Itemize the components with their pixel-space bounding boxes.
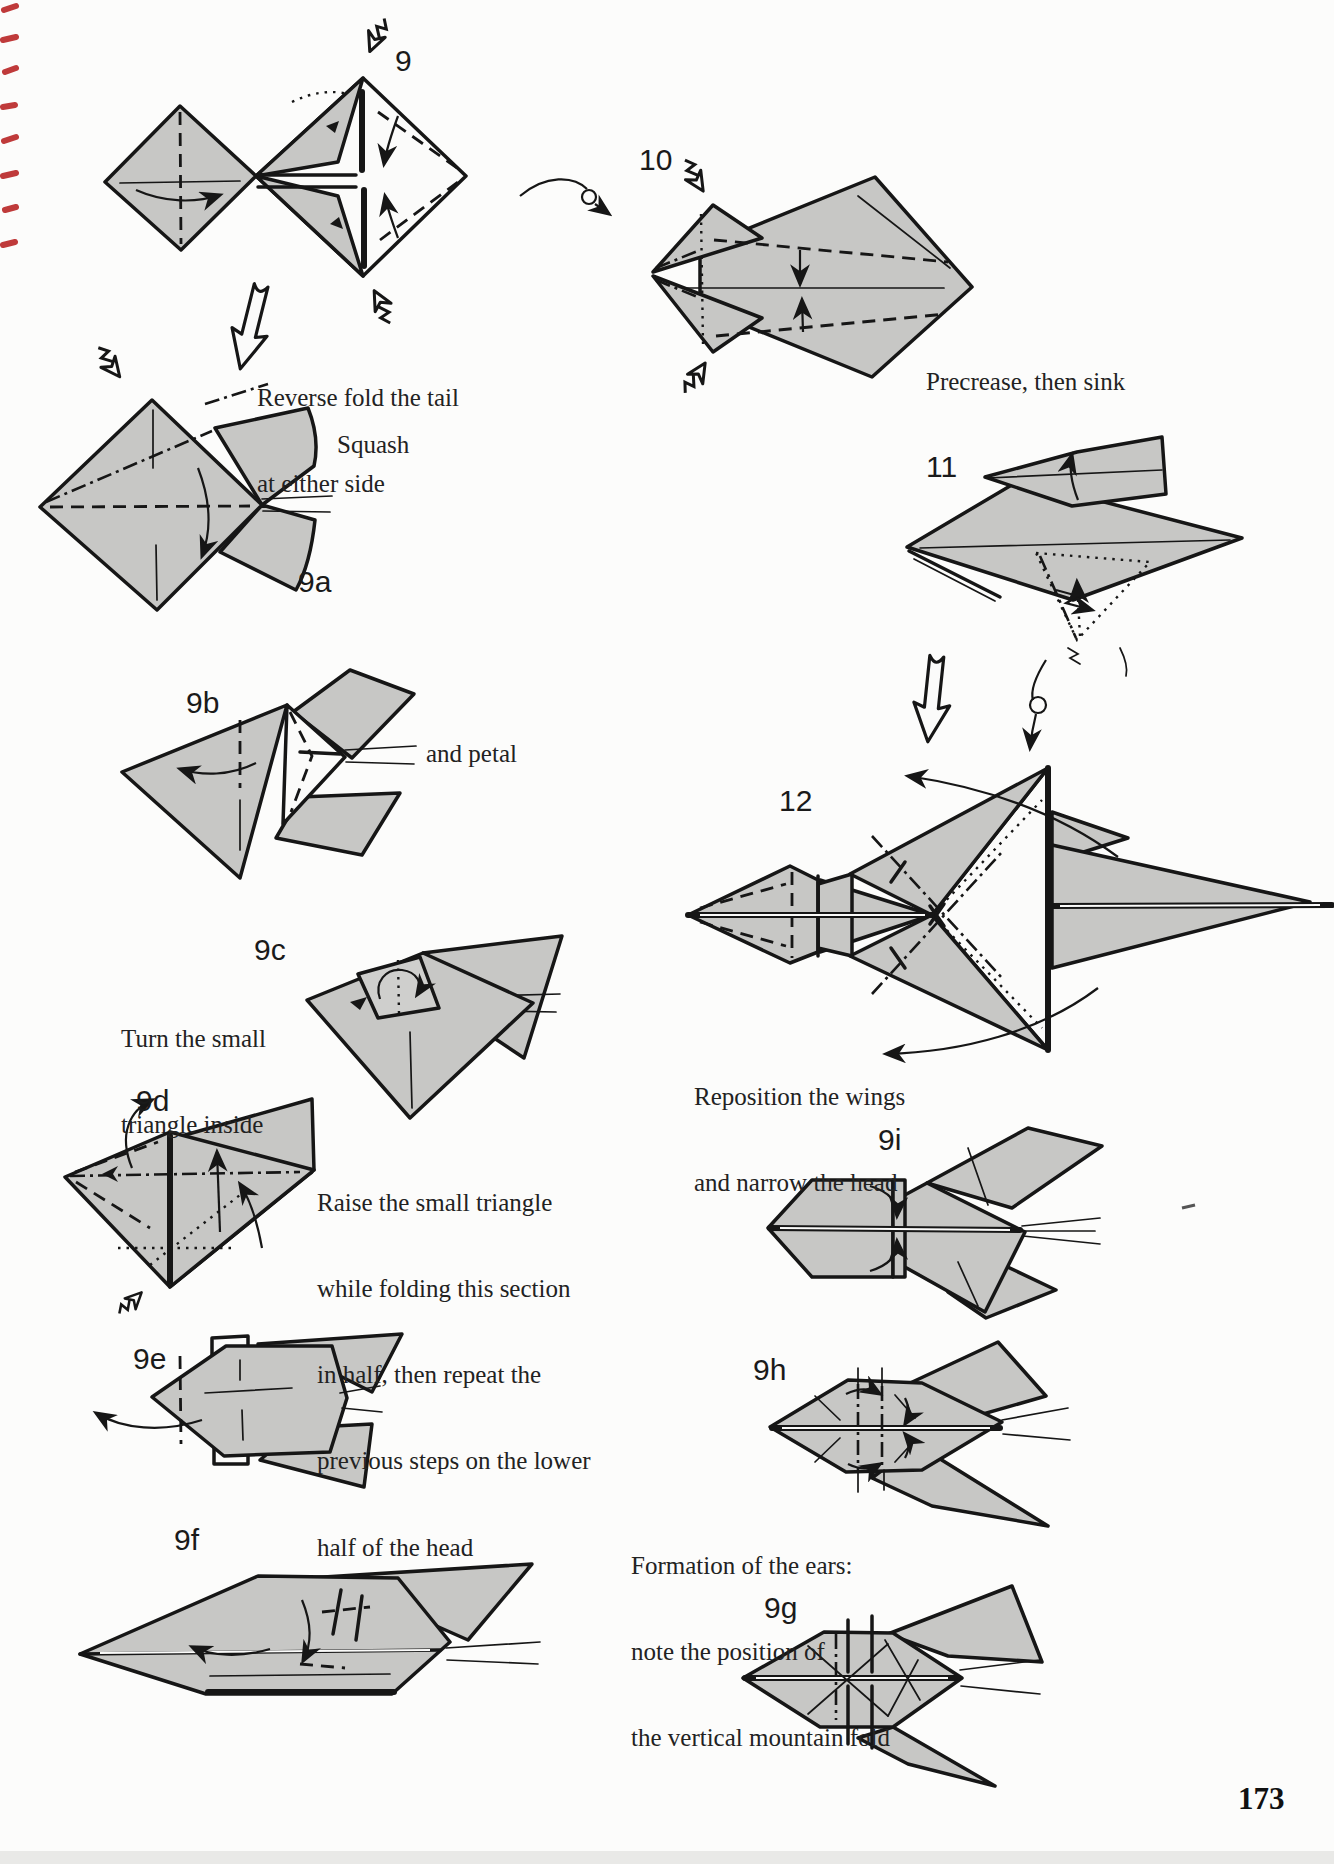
push-arrow-icon <box>90 343 126 382</box>
book-page: 9 9a 9b 9c 9d 9e 9f 10 11 12 9i 9h 9g Re… <box>0 0 1334 1864</box>
push-arrow-icon <box>366 286 399 326</box>
step-9h-label: 9h <box>753 1353 786 1387</box>
step-9c-label: 9c <box>254 933 286 967</box>
rotate-symbol-icon <box>1030 660 1046 748</box>
margin-speck <box>1182 1205 1195 1208</box>
step-9f-label: 9f <box>174 1523 199 1557</box>
push-arrow-icon <box>676 156 710 196</box>
scan-edge-band <box>0 1851 1334 1864</box>
step-11-label: 11 <box>926 450 957 484</box>
page-number: 173 <box>1238 1781 1285 1817</box>
scan-marks <box>3 6 16 245</box>
figure-step-9b <box>122 670 416 878</box>
push-arrow-icon <box>361 15 391 55</box>
figure-step-9c <box>307 936 562 1118</box>
step-9h-caption: Formation of the ears: note the position… <box>631 1494 890 1810</box>
figure-step-11 <box>907 437 1242 676</box>
push-arrow-icon <box>678 358 712 398</box>
step-9a-label: 9a <box>298 565 331 599</box>
step-9a-caption: Squash <box>337 431 409 460</box>
step-9c-caption: Turn the small triangle inside <box>121 967 266 1197</box>
step-10-label: 10 <box>639 143 672 177</box>
next-step-arrow-icon <box>910 654 955 743</box>
step-12-caption: Reposition the wings and narrow the head <box>694 1025 905 1255</box>
step-9d-caption: Raise the small triangle while folding t… <box>317 1131 591 1620</box>
figure-step-9 <box>105 15 609 373</box>
step-9-label: 9 <box>395 44 412 78</box>
step-9e-label: 9e <box>133 1342 166 1376</box>
step-10-caption: Precrease, then sink <box>926 368 1125 397</box>
push-arrow-icon <box>115 1287 147 1319</box>
step-12-label: 12 <box>779 784 812 818</box>
figure-step-10 <box>653 156 972 398</box>
figure-step-12 <box>688 654 1332 1054</box>
step-9b-caption: and petal <box>426 740 517 769</box>
rotate-symbol-icon <box>520 179 609 214</box>
step-9b-label: 9b <box>186 686 219 720</box>
